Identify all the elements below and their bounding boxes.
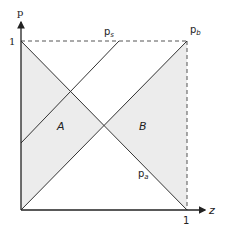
region-a-label: A	[56, 120, 65, 133]
region-b-label: B	[139, 120, 147, 133]
x-tick-1: 1	[183, 215, 189, 226]
pb-label: pb	[190, 24, 201, 37]
diagram-canvas: p z 1 1 ps pb pa A B	[0, 0, 225, 229]
ps-label: ps	[104, 26, 114, 39]
x-axis-label: z	[208, 204, 215, 217]
y-axis-label: p	[17, 7, 23, 18]
y-tick-1: 1	[9, 36, 15, 47]
